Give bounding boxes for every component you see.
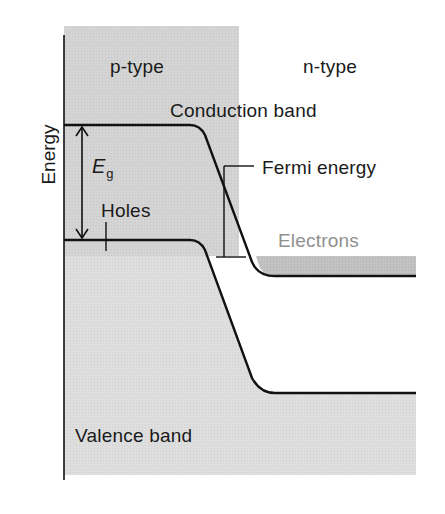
energy-axis-label: Energy — [39, 117, 58, 193]
band-gap-symbol: E — [92, 155, 105, 177]
band-gap-subscript: g — [106, 166, 113, 181]
holes-label: Holes — [101, 201, 151, 220]
valence-band-label: Valence band — [75, 426, 192, 445]
fermi-energy-label: Fermi energy — [262, 158, 376, 177]
band-diagram: Energy p-type n-type Conduction band Eg … — [0, 0, 445, 514]
p-type-label: p-type — [110, 57, 164, 76]
electrons-region — [256, 256, 416, 276]
electrons-label: Electrons — [278, 231, 359, 250]
band-gap-label: Eg — [92, 156, 114, 176]
n-type-label: n-type — [303, 57, 357, 76]
band-diagram-graphic — [0, 0, 445, 514]
conduction-band-label: Conduction band — [170, 101, 317, 120]
holes-region — [64, 240, 207, 256]
